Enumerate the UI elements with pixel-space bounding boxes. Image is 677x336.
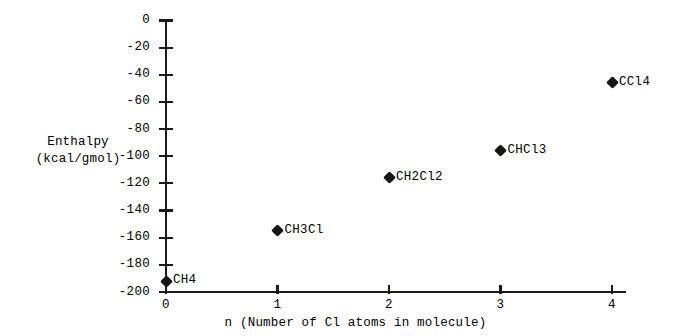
x-axis-title: n (Number of Cl atoms in molecule)	[0, 317, 677, 330]
y-axis-tick	[159, 237, 173, 239]
y-axis-tick	[159, 101, 173, 103]
x-axis-tick-label: 1	[258, 299, 298, 312]
data-point-marker	[494, 144, 507, 157]
y-axis-tick-label: -60	[94, 95, 150, 108]
data-point-marker	[383, 172, 396, 185]
x-axis-tick	[611, 285, 613, 294]
scatter-plot: 0-20-40-60-80-100-120-140-160-180-200 01…	[0, 0, 677, 336]
y-axis-title: Enthalpy (kcal/gmol)	[8, 134, 148, 168]
y-axis-title-line-1: Enthalpy	[8, 134, 148, 151]
x-axis-tick	[388, 285, 390, 294]
y-axis-tick-label: -180	[94, 258, 150, 271]
x-axis-tick-label: 3	[481, 299, 521, 312]
data-point-marker	[606, 77, 619, 90]
data-point-marker	[271, 225, 284, 238]
y-axis-tick	[159, 128, 173, 130]
y-axis-tick	[159, 74, 173, 76]
y-axis-title-line-2: (kcal/gmol)	[8, 151, 148, 168]
y-axis-tick	[159, 47, 173, 49]
x-axis-line	[165, 291, 626, 293]
x-axis-tick-label: 4	[592, 299, 632, 312]
y-axis-tick-label: -40	[94, 68, 150, 81]
y-axis-tick	[159, 209, 173, 211]
data-point-label: CH2Cl2	[396, 171, 443, 184]
y-axis-tick-label: -140	[94, 204, 150, 217]
x-axis-tick	[276, 285, 278, 294]
y-axis-tick	[159, 182, 173, 184]
y-axis-tick	[159, 155, 173, 157]
x-axis-tick-label: 0	[146, 299, 186, 312]
y-axis-tick-label: -160	[94, 231, 150, 244]
y-axis-tick-label: -200	[94, 286, 150, 299]
data-point-marker	[160, 275, 173, 288]
data-point-label: CCl4	[619, 76, 650, 89]
y-axis-tick-label: -20	[94, 41, 150, 54]
x-axis-tick	[499, 285, 501, 294]
data-point-label: CHCl3	[508, 144, 547, 157]
data-point-label: CH4	[173, 274, 196, 287]
y-axis-tick-label: -120	[94, 177, 150, 190]
y-axis-tick-label: 0	[94, 14, 150, 27]
y-axis-tick	[159, 19, 173, 21]
data-point-label: CH3Cl	[285, 224, 324, 237]
x-axis-tick-label: 2	[369, 299, 409, 312]
y-axis-tick	[159, 264, 173, 266]
